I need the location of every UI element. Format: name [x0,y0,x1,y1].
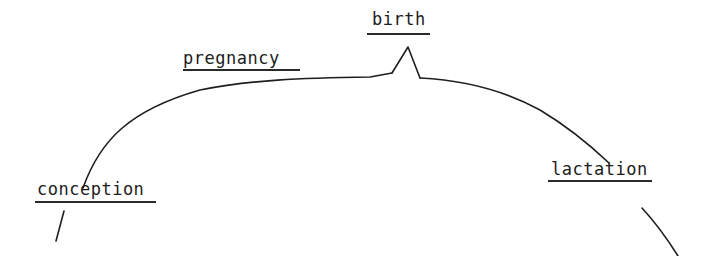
falling-curve [420,78,609,163]
underline-pregnancy [183,69,300,71]
label-pregnancy: pregnancy [183,49,280,67]
underline-lactation [548,180,652,182]
life-cycle-curve [0,0,703,256]
underline-birth [367,33,430,35]
conception-stroke-lower [56,211,64,241]
life-cycle-diagram: conception pregnancy birth lactation [0,0,703,256]
lactation-stroke-lower [642,208,678,256]
label-conception: conception [37,180,144,198]
underline-conception [35,201,156,203]
label-lactation: lactation [551,160,648,178]
rising-curve [83,73,392,188]
label-birth: birth [372,10,426,28]
birth-spike [392,47,420,78]
